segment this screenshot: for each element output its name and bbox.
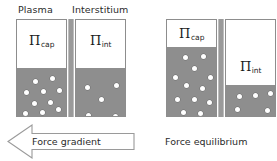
solute-particle: [50, 76, 55, 81]
solute-particle: [32, 101, 37, 106]
osmotic-pressure-label-cap: Πcap: [17, 34, 66, 47]
solute-particle: [114, 83, 119, 88]
solute-particle: [113, 114, 118, 117]
solute-particle: [33, 79, 38, 84]
membrane-divider-left: [68, 19, 74, 117]
header-interstitium: Interstitium: [72, 5, 128, 15]
force-equilibrium-caption: Force equilibrium: [165, 137, 247, 147]
pi-symbol: Π: [29, 33, 40, 48]
solute-particle: [99, 97, 104, 102]
pi-symbol: Π: [240, 59, 251, 74]
chamber-plasma-equilibrium: Πcap: [166, 19, 217, 117]
osmotic-pressure-label-cap: Πcap: [167, 27, 216, 40]
solution-fill: [76, 68, 125, 116]
solute-particle: [85, 85, 90, 90]
pi-symbol: Π: [179, 26, 190, 41]
membrane-divider-right: [218, 19, 224, 117]
solute-particle: [48, 100, 53, 105]
chamber-interstitium-equilibrium: Πint: [225, 19, 276, 117]
pi-symbol: Π: [90, 33, 101, 48]
solute-particle: [235, 107, 240, 112]
header-plasma: Plasma: [18, 5, 53, 15]
solute-particle: [24, 90, 29, 95]
solute-particle: [237, 94, 242, 99]
pi-subscript: cap: [41, 40, 54, 49]
solute-particle: [23, 111, 28, 116]
figure-canvas: Plasma Interstitium Πcap Πint Force gr: [0, 0, 277, 161]
solute-particle: [40, 110, 45, 115]
solute-particle: [268, 91, 273, 96]
pi-subscript: int: [252, 66, 262, 75]
solute-particle: [265, 108, 270, 113]
solute-particle: [41, 89, 46, 94]
solute-particle: [253, 93, 258, 98]
solution-fill: [167, 47, 216, 116]
pi-subscript: cap: [191, 33, 204, 42]
solute-particle: [56, 107, 61, 112]
chamber-plasma-gradient: Πcap: [16, 19, 67, 117]
osmotic-pressure-label-int: Πint: [76, 34, 125, 47]
pi-subscript: int: [102, 40, 112, 49]
solute-particle: [57, 88, 62, 93]
force-gradient-label: Force gradient: [32, 137, 101, 147]
osmotic-pressure-label-int: Πint: [226, 60, 275, 73]
solute-particle: [86, 113, 91, 117]
chamber-interstitium-gradient: Πint: [75, 19, 126, 117]
